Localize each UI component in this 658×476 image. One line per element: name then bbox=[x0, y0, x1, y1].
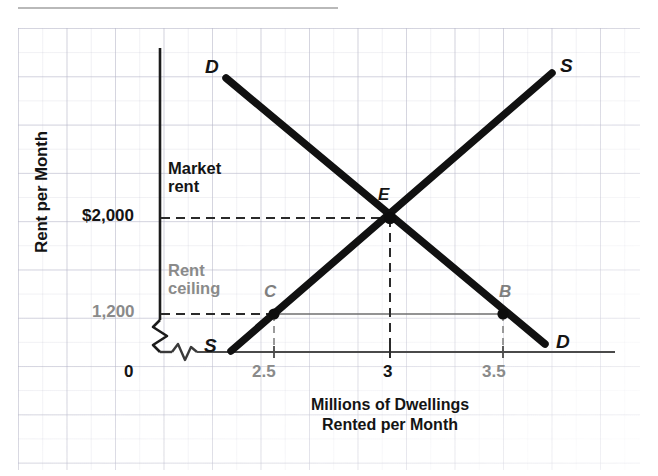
x-tick-label-3-5: 3.5 bbox=[482, 363, 506, 381]
point-marker-C bbox=[268, 308, 279, 319]
point-label-B: B bbox=[499, 283, 511, 301]
economics-graph-figure: Rent per Month Millions of Dwellings Ren… bbox=[0, 0, 658, 476]
x-axis-title-line-2: Rented per Month bbox=[245, 415, 535, 435]
market-rent-annotation: Market rent bbox=[168, 160, 221, 196]
y-tick-label-2000: $2,000 bbox=[82, 207, 134, 225]
demand-curve-label-top: D bbox=[205, 57, 219, 78]
point-label-E: E bbox=[378, 186, 389, 204]
demand-curve-label-bottom: D bbox=[556, 332, 570, 353]
point-marker-E bbox=[384, 212, 396, 224]
x-tick-label-origin: 0 bbox=[124, 363, 133, 381]
x-axis-title: Millions of Dwellings Rented per Month bbox=[245, 395, 535, 435]
supply-curve-label-bottom: S bbox=[204, 336, 217, 357]
x-axis-title-line-1: Millions of Dwellings bbox=[245, 395, 535, 415]
y-axis-title: Rent per Month bbox=[32, 117, 52, 267]
point-marker-B bbox=[497, 308, 508, 319]
rent-ceiling-annotation: Rent ceiling bbox=[168, 262, 220, 298]
point-label-C: C bbox=[264, 283, 276, 301]
y-axis-break-mark bbox=[153, 320, 167, 352]
x-tick-label-2-5: 2.5 bbox=[252, 363, 276, 381]
x-axis-break-mark bbox=[172, 344, 197, 360]
supply-curve-label-top: S bbox=[560, 56, 573, 77]
x-tick-label-3: 3 bbox=[383, 363, 392, 381]
y-tick-label-1200: 1,200 bbox=[92, 303, 135, 321]
